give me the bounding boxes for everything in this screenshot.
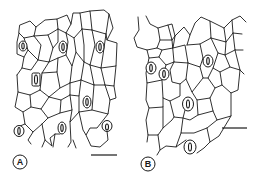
stoma	[159, 68, 169, 80]
stoma	[59, 41, 67, 53]
stoma	[58, 122, 66, 134]
panel-label-b: B	[141, 157, 155, 171]
epidermis-figure: A B	[0, 0, 262, 183]
stoma	[203, 55, 213, 67]
stoma	[19, 41, 27, 51]
stoma	[96, 41, 104, 53]
stoma	[14, 126, 24, 137]
stoma	[184, 140, 196, 154]
panel-b-stomata	[146, 55, 213, 154]
stoma	[183, 97, 194, 111]
stoma	[83, 96, 91, 108]
panel-label-b-text: B	[145, 159, 152, 169]
panel-label-a: A	[13, 155, 27, 169]
panel-label-a-text: A	[17, 157, 24, 167]
stoma	[32, 73, 40, 86]
panel-b-cells	[134, 16, 246, 155]
stoma	[102, 121, 112, 132]
panel-a-stomata	[14, 41, 112, 137]
stoma	[146, 62, 156, 74]
